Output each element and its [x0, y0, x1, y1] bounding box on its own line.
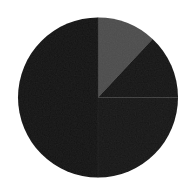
- pie-chart-figure: [0, 0, 195, 196]
- pie-chart-canvas: [0, 0, 195, 196]
